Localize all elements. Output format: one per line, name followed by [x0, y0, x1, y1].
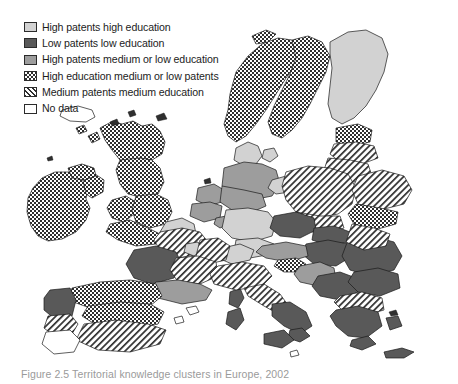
legend-item-label: Low patents low education — [42, 38, 164, 49]
legend-swatch-icon — [24, 71, 37, 81]
figure-caption: Figure 2.5 Territorial knowledge cluster… — [21, 370, 289, 380]
legend-item-label: High patents high education — [42, 22, 171, 33]
legend-item-high-patents-medium-or-low-education: High patents medium or low education — [24, 52, 219, 68]
figure-caption-clip: Figure 2.5 Territorial knowledge cluster… — [0, 370, 458, 384]
legend-item-label: High patents medium or low education — [42, 54, 219, 65]
legend-swatch-icon — [24, 55, 37, 65]
legend-item-label: Medium patents medium education — [42, 87, 204, 98]
legend-swatch-icon — [24, 104, 37, 114]
legend-item-high-patents-high-education: High patents high education — [24, 19, 219, 35]
legend-swatch-icon — [24, 22, 37, 32]
legend-item-no-data: No data — [24, 100, 219, 116]
legend-swatch-icon — [24, 38, 37, 48]
figure-container: High patents high education Low patents … — [0, 0, 458, 384]
legend-item-high-education-medium-or-low-patents: High education medium or low patents — [24, 68, 219, 84]
legend-swatch-icon — [24, 87, 37, 97]
map-legend: High patents high education Low patents … — [24, 19, 219, 117]
legend-item-medium-patents-medium-education: Medium patents medium education — [24, 84, 219, 100]
legend-item-label: No data — [42, 103, 78, 114]
legend-item-label: High education medium or low patents — [42, 71, 219, 82]
legend-item-low-patents-low-education: Low patents low education — [24, 35, 219, 51]
